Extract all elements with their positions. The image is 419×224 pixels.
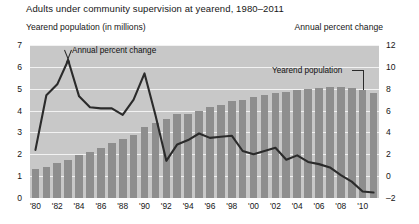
x-axis-tick-label: '92 — [161, 201, 172, 211]
x-axis-tick-label: '90 — [139, 201, 150, 211]
x-axis-tick-label: '08 — [335, 201, 346, 211]
x-axis-tick-label: '06 — [314, 201, 325, 211]
x-axis-tick-label: '02 — [270, 201, 281, 211]
annotation-annual-percent-change: Annual percent change — [72, 46, 156, 55]
left-axis-tick-label: 0 — [17, 194, 22, 203]
left-axis-tick-label: 7 — [17, 41, 22, 50]
x-axis-tick-label: '10 — [357, 201, 368, 211]
left-axis-tick-label: 2 — [17, 150, 22, 159]
x-axis-tick-label: '80 — [30, 201, 41, 211]
right-axis-tick-label: 8 — [386, 85, 391, 94]
left-axis-tick-label: 3 — [17, 128, 22, 137]
left-axis-tick-label: 4 — [17, 107, 22, 116]
right-axis-tick-label: 6 — [386, 107, 391, 116]
x-axis-tick-label: '04 — [292, 201, 303, 211]
right-axis-tick-label: 0 — [386, 172, 391, 181]
right-axis-tick-label: 4 — [386, 128, 391, 137]
left-axis-tick-label: 6 — [17, 63, 22, 72]
x-axis-tick-label: '82 — [52, 201, 63, 211]
chart-page: Adults under community supervision at ye… — [0, 0, 419, 224]
right-axis-tick-label: 12 — [386, 41, 396, 50]
left-axis-tick-label: 5 — [17, 85, 22, 94]
x-axis-tick-label: '96 — [204, 201, 215, 211]
x-axis-ticks: '80'82'84'86'88'90'92'94'96'98'00'02'04'… — [30, 199, 379, 215]
x-axis-tick-label: '86 — [95, 201, 106, 211]
page-title: Adults under community supervision at ye… — [26, 3, 284, 14]
right-axis-caption: Annual percent change — [295, 22, 383, 32]
annotation-yearend-population: Yearend population — [272, 66, 342, 75]
x-axis-tick-label: '98 — [226, 201, 237, 211]
left-axis-ticks: 01234567 — [0, 45, 26, 198]
right-axis-tick-label: –2 — [386, 194, 396, 203]
right-axis-ticks: –2024681012 — [383, 45, 413, 198]
x-axis-tick-label: '00 — [248, 201, 259, 211]
left-axis-tick-label: 1 — [17, 172, 22, 181]
x-axis-tick-label: '94 — [183, 201, 194, 211]
right-axis-tick-label: 10 — [386, 63, 396, 72]
leader-line-yearend-vertical — [363, 70, 364, 90]
left-axis-caption: Yearend population (in millions) — [26, 22, 146, 32]
x-axis-tick-label: '84 — [74, 201, 85, 211]
right-axis-tick-label: 2 — [386, 150, 391, 159]
x-axis-tick-label: '88 — [117, 201, 128, 211]
